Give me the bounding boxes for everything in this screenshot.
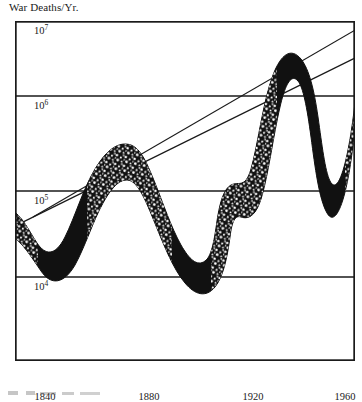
ytick-label-1e7: 107 (34, 25, 48, 36)
ytick-label-1e6: 106 (34, 100, 48, 111)
trend-lines (15, 29, 355, 227)
xtick-label-1960: 1960 (335, 391, 356, 402)
trend-line-upper (33, 29, 355, 217)
xtick-label-1920: 1920 (243, 391, 264, 402)
war-deaths-band-fill (15, 53, 355, 294)
xtick-label-1880: 1880 (139, 391, 160, 402)
ytick-label-1e4: 104 (34, 281, 48, 292)
chart-title: War Deaths/Yr. (9, 1, 79, 14)
page-edge-scrap (6, 389, 126, 396)
war-deaths-band (15, 53, 355, 294)
plot-area: 107 106 105 104 1840 1880 1920 1960 (15, 21, 355, 361)
ytick-exponent-6: 6 (45, 98, 49, 107)
ytick-exponent-4: 4 (45, 279, 49, 288)
ytick-exponent-7: 7 (45, 23, 49, 32)
ytick-exponent-5: 5 (45, 193, 49, 202)
ytick-label-1e5: 105 (34, 195, 48, 206)
war-deaths-log-plot (15, 21, 355, 361)
